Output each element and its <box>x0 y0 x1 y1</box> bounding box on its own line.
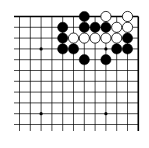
go-board[interactable] <box>0 0 149 148</box>
white-stone[interactable] <box>79 33 89 43</box>
black-stone[interactable] <box>90 22 100 32</box>
black-stone[interactable] <box>58 33 68 43</box>
black-stone[interactable] <box>122 44 132 54</box>
white-stone[interactable] <box>68 33 78 43</box>
black-stone[interactable] <box>79 55 89 65</box>
black-stone[interactable] <box>101 22 111 32</box>
white-stone[interactable] <box>101 11 111 21</box>
white-stone[interactable] <box>122 22 132 32</box>
black-stone[interactable] <box>58 44 68 54</box>
white-stone[interactable] <box>90 33 100 43</box>
black-stone[interactable] <box>79 22 89 32</box>
black-stone[interactable] <box>58 22 68 32</box>
white-stone[interactable] <box>101 33 111 43</box>
white-stone[interactable] <box>112 22 122 32</box>
black-stone[interactable] <box>68 44 78 54</box>
star-point <box>40 112 43 115</box>
black-stone[interactable] <box>122 33 132 43</box>
white-stone[interactable] <box>112 33 122 43</box>
black-stone[interactable] <box>79 11 89 21</box>
star-point <box>40 47 43 50</box>
black-stone[interactable] <box>101 55 111 65</box>
star-point <box>104 47 107 50</box>
star-point <box>104 112 107 115</box>
white-stone[interactable] <box>122 11 132 21</box>
black-stone[interactable] <box>112 44 122 54</box>
